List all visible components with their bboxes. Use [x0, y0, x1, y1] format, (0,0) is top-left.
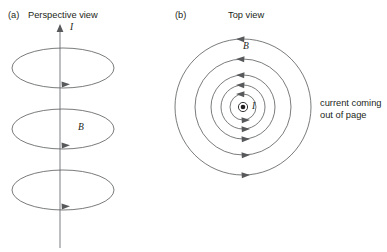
field-circle-arrow-icon [242, 172, 251, 178]
panel-b-current-symbol: I [252, 101, 255, 112]
panel-a-field-symbol: B [78, 122, 84, 133]
panel-b-field-symbol: B [243, 41, 249, 52]
field-circle-arrow-icon [236, 72, 245, 78]
current-arrow-icon [57, 24, 64, 32]
field-circle-arrow-icon [242, 117, 251, 123]
field-circle-arrow-icon [236, 82, 245, 88]
field-loop-ellipse [12, 109, 114, 149]
panel-b-label: (b) [175, 10, 186, 21]
magnetic-field-figure: (a) Perspective view I B (b) Top view B … [0, 0, 387, 252]
panel-b-title: Top view [228, 10, 264, 21]
field-loop-arrow-icon [62, 143, 71, 149]
field-loop-arrow-icon [62, 82, 71, 88]
field-circle-arrow-icon [242, 152, 251, 158]
field-loop-arrow-icon [62, 204, 71, 210]
field-circle-arrow-icon [236, 91, 245, 97]
panel-a-title: Perspective view [28, 10, 98, 21]
figure-canvas [0, 0, 387, 252]
panel-a-graphics [12, 24, 114, 248]
panel-a-label: (a) [8, 10, 19, 21]
panel-b-graphics [175, 36, 311, 178]
current-caption-line-2: out of page [320, 110, 367, 121]
current-out-of-page-dot-icon [241, 105, 246, 110]
field-circle-arrow-icon [242, 126, 251, 132]
field-circle-arrow-icon [242, 136, 251, 142]
panel-a-current-symbol: I [70, 22, 73, 33]
field-loop-ellipse [12, 170, 114, 210]
field-loop-ellipse [12, 48, 114, 88]
field-circle-arrow-icon [236, 56, 245, 62]
current-caption-line-1: current coming [320, 98, 382, 109]
